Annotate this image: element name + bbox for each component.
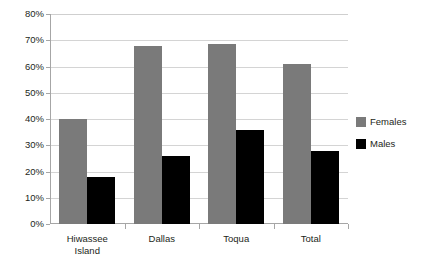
x-axis-tick	[125, 224, 126, 229]
bar-group-bars	[274, 14, 349, 224]
bar-group	[199, 14, 274, 224]
legend-label: Males	[370, 138, 395, 149]
x-axis-labels: Hiwassee IslandDallasToquaTotal	[50, 231, 348, 267]
bar-group-bars	[199, 14, 274, 224]
bar-group	[125, 14, 200, 224]
x-axis-category-label: Toqua	[199, 231, 274, 267]
bar-chart: 0%10%20%30%40%50%60%70%80% Hiwassee Isla…	[0, 0, 425, 270]
y-axis-tick-label: 80%	[6, 9, 44, 19]
x-axis-category-label: Total	[274, 231, 349, 267]
bar-males[interactable]	[311, 151, 339, 225]
y-axis-tick-label: 30%	[6, 140, 44, 150]
x-axis-tick	[274, 224, 275, 229]
y-axis-tick-label: 40%	[6, 114, 44, 124]
legend-item[interactable]: Females	[356, 116, 422, 127]
bar-group	[274, 14, 349, 224]
bar-males[interactable]	[162, 156, 190, 224]
y-axis-tick-label: 60%	[6, 62, 44, 72]
legend-swatch-icon	[356, 117, 366, 127]
bar-females[interactable]	[59, 119, 87, 224]
bar-group	[50, 14, 125, 224]
bar-males[interactable]	[87, 177, 115, 224]
bar-females[interactable]	[208, 44, 236, 224]
plot-area	[50, 14, 348, 224]
legend-item[interactable]: Males	[356, 138, 422, 149]
x-axis-tick	[348, 224, 349, 229]
x-axis-category-label: Hiwassee Island	[50, 231, 125, 267]
y-axis-tick-label: 50%	[6, 88, 44, 98]
bar-males[interactable]	[236, 130, 264, 225]
y-axis-tick-label: 70%	[6, 35, 44, 45]
y-axis-tick-label: 10%	[6, 193, 44, 203]
legend-label: Females	[370, 116, 406, 127]
y-axis-tick-label: 0%	[6, 219, 44, 229]
x-axis-tick	[199, 224, 200, 229]
x-axis-category-label: Dallas	[125, 231, 200, 267]
y-axis-tick	[46, 224, 50, 225]
bar-group-bars	[125, 14, 200, 224]
y-axis-tick-label: 20%	[6, 167, 44, 177]
bar-groups	[50, 14, 348, 224]
bar-females[interactable]	[283, 64, 311, 224]
legend-swatch-icon	[356, 139, 366, 149]
chart-legend: FemalesMales	[356, 116, 422, 160]
bar-females[interactable]	[134, 46, 162, 225]
bar-group-bars	[50, 14, 125, 224]
